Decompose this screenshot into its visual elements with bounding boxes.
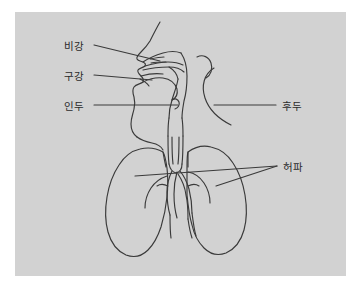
epiglottis bbox=[172, 99, 179, 109]
label-oral-cavity: 구강 bbox=[64, 71, 85, 82]
label-larynx: 후두 bbox=[282, 101, 303, 112]
tongue bbox=[143, 78, 177, 100]
larynx-outline-right bbox=[182, 118, 183, 136]
trachea-inner-right bbox=[178, 137, 179, 164]
diagram-root: 비강 구강 인두 후두 허파 bbox=[0, 0, 361, 293]
right-bronchiole-branch bbox=[188, 185, 199, 187]
respiratory-system-illustration bbox=[0, 0, 361, 293]
larynx-outline-left bbox=[168, 118, 169, 136]
label-lungs: 허파 bbox=[283, 162, 304, 173]
larynx-small-arc bbox=[197, 56, 212, 78]
trachea-right-wall bbox=[182, 136, 183, 164]
pharynx-back-wall bbox=[181, 53, 187, 118]
soft-palate-uvula bbox=[169, 67, 178, 79]
left-bronchus-inner bbox=[174, 172, 177, 218]
trachea-inner-left bbox=[172, 137, 173, 164]
hard-palate bbox=[143, 67, 184, 72]
left-lower-bronchus bbox=[170, 215, 171, 238]
oral-floor bbox=[141, 74, 163, 76]
leader-line-lungs-left bbox=[135, 166, 277, 176]
label-nasal-cavity: 비강 bbox=[64, 41, 85, 52]
left-lung-outline bbox=[106, 148, 168, 256]
right-lung-outline bbox=[187, 146, 246, 254]
left-lung-hilum bbox=[145, 176, 167, 208]
leader-line-lungs-right bbox=[216, 166, 277, 186]
trachea-left-wall bbox=[168, 136, 169, 164]
left-bronchiole-branch bbox=[157, 185, 168, 187]
label-pharynx: 인두 bbox=[64, 101, 85, 112]
leader-line-nasal-cavity bbox=[94, 45, 160, 61]
